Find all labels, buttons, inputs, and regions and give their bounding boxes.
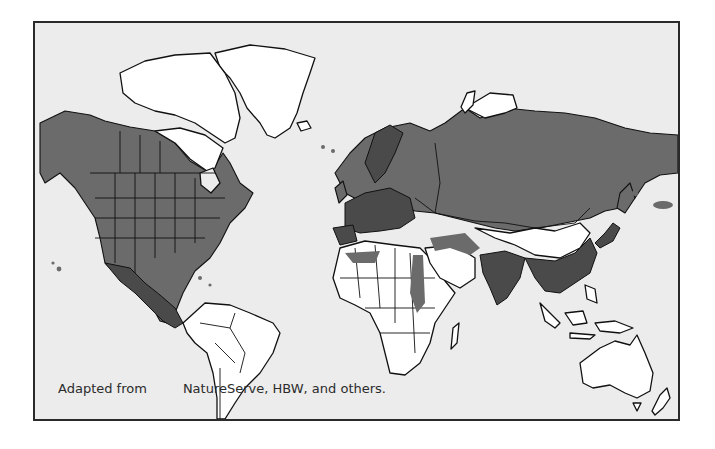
iberia-range xyxy=(333,225,357,245)
pacific-island xyxy=(632,190,638,196)
map-frame xyxy=(33,21,680,421)
philippines xyxy=(585,285,597,303)
caption-prefix: Adapted from xyxy=(58,381,147,396)
south-america xyxy=(183,303,280,419)
hawaii-island xyxy=(51,261,54,264)
attribution-caption: Adapted fromNatureServe, HBW, and others… xyxy=(58,381,386,396)
world-range-map xyxy=(35,23,678,419)
caption-suffix: NatureServe, HBW, and others. xyxy=(183,381,386,396)
aleutian-range-patch xyxy=(653,201,673,209)
hawaii-island xyxy=(57,267,62,272)
caribbean-island xyxy=(208,283,211,286)
atlantic-island xyxy=(331,149,335,153)
tasmania xyxy=(633,403,641,411)
australia xyxy=(580,335,653,398)
india-range xyxy=(480,251,525,305)
caribbean-island xyxy=(198,276,202,280)
iceland xyxy=(297,121,311,131)
indonesia xyxy=(540,303,633,339)
atlantic-island xyxy=(321,145,325,149)
new-zealand xyxy=(652,388,670,415)
madagascar xyxy=(451,323,459,349)
japan-range xyxy=(595,223,620,248)
